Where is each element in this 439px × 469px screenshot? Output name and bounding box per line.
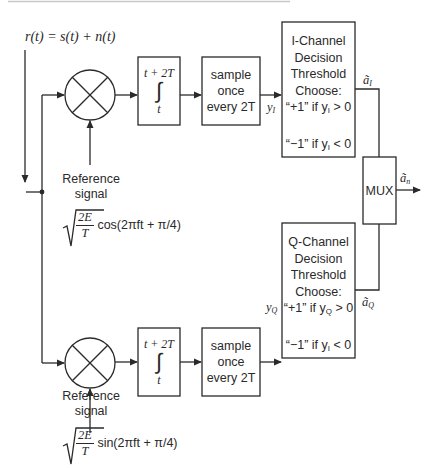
- q-decision-text: Q-Channel Decision Threshold Choose: “+1…: [282, 234, 355, 357]
- q-reference-line2: signal: [56, 404, 126, 419]
- i-reference-label: Reference signal: [56, 172, 126, 202]
- integral-icon: ∫: [156, 351, 162, 373]
- mux: MUX: [363, 157, 396, 224]
- q-decision-line1: Q-Channel: [282, 234, 355, 251]
- i-sampler-line2: once: [217, 83, 244, 99]
- i-integrator: t + 2T ∫ t: [138, 57, 180, 125]
- input-signal-label: r(t) = s(t) + n(t): [25, 30, 115, 44]
- i-integrator-lower: t: [157, 102, 160, 116]
- i-sample-output-label: yI: [267, 101, 275, 115]
- i-reference-line2: signal: [56, 187, 126, 202]
- i-sampler-line1: sample: [211, 67, 251, 83]
- integral-icon: ∫: [156, 80, 162, 102]
- i-sampler-line3: every 2T: [207, 99, 256, 115]
- q-reference-label: Reference signal: [56, 389, 126, 419]
- i-decision-line1: I-Channel: [282, 33, 355, 50]
- junction-dot: [40, 190, 45, 195]
- q-integrator: t + 2T ∫ t: [138, 328, 180, 396]
- i-reference-formula: 2ET cos(2πft + π/4): [76, 211, 181, 239]
- q-decision-output-label: ãQ: [362, 296, 374, 310]
- i-decision-rule-pos: “+1” if yI > 0: [282, 99, 355, 120]
- q-decision-line2: Decision: [282, 251, 355, 268]
- i-decision-line2: Decision: [282, 50, 355, 67]
- q-integrator-lower: t: [157, 373, 160, 387]
- q-decision-line3: Threshold: [282, 267, 355, 284]
- q-sample-output-label: yQ: [266, 301, 277, 315]
- q-sampler: sample once every 2T: [202, 328, 260, 396]
- q-reference-line1: Reference: [56, 389, 126, 404]
- i-decision-line3: Threshold: [282, 66, 355, 83]
- q-decision-line4: Choose:: [282, 284, 355, 301]
- q-sampler-line1: sample: [211, 338, 251, 354]
- q-decision-rule-pos: “+1” if yQ > 0: [282, 300, 355, 321]
- i-reference-line1: Reference: [56, 172, 126, 187]
- i-sampler: sample once every 2T: [202, 57, 260, 125]
- q-sampler-line3: every 2T: [207, 370, 256, 386]
- i-decision-line4: Choose:: [282, 83, 355, 100]
- mux-label: MUX: [366, 183, 394, 199]
- i-decision-rule-neg: “−1” if yI < 0: [282, 136, 355, 157]
- i-decision-text: I-Channel Decision Threshold Choose: “+1…: [282, 33, 355, 156]
- mux-output-label: ãn: [400, 172, 410, 186]
- q-decision-rule-neg: “−1” if yI < 0: [282, 337, 355, 358]
- q-reference-formula: 2ET sin(2πft + π/4): [76, 429, 178, 457]
- i-decision-output-label: ãI: [363, 74, 372, 88]
- q-sampler-line2: once: [217, 354, 244, 370]
